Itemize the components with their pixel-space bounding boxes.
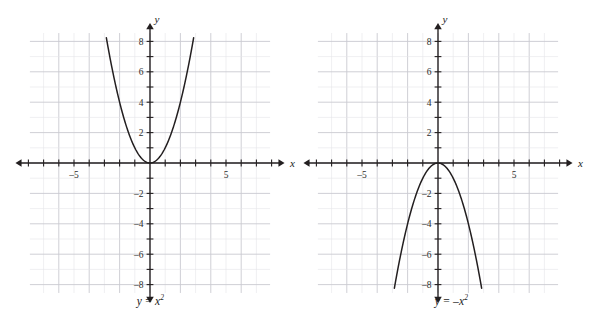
y-axis-tick-label: –6 xyxy=(421,250,432,260)
y-axis-tick-label: –2 xyxy=(421,189,432,199)
coordinate-plane-left: –558642–2–4–6–8xy xyxy=(0,0,301,326)
y-axis-tick-label: 6 xyxy=(139,67,144,77)
x-axis-tick-label: –5 xyxy=(68,170,79,180)
caption-left: y = x2 xyxy=(0,293,301,307)
x-axis-arrow-right xyxy=(278,159,284,167)
x-axis-arrow-left xyxy=(15,159,21,167)
y-axis-tick-label: 8 xyxy=(427,37,432,47)
y-axis-label: y xyxy=(442,13,448,25)
x-axis-label: x xyxy=(577,157,583,169)
y-axis-label: y xyxy=(154,13,160,25)
x-axis-arrow-right xyxy=(566,159,572,167)
y-axis-tick-label: 2 xyxy=(427,128,432,138)
y-axis-tick-label: –8 xyxy=(133,280,144,290)
y-axis-tick-label: 4 xyxy=(427,98,432,108)
graph-panel-y-equals-x-squared: –558642–2–4–6–8xy y = x2 xyxy=(0,0,301,326)
y-axis-tick-label: 6 xyxy=(427,67,432,77)
y-axis-tick-label: –4 xyxy=(133,219,144,229)
x-axis-tick-label: 5 xyxy=(224,170,229,180)
caption-left-lhs: y xyxy=(137,295,142,307)
y-axis-tick-label: –8 xyxy=(421,280,432,290)
x-axis-arrow-left xyxy=(303,159,309,167)
caption-left-exponent: 2 xyxy=(160,293,164,302)
x-axis-tick-label: 5 xyxy=(512,170,517,180)
y-axis-tick-label: –2 xyxy=(133,189,144,199)
caption-right-exponent: 2 xyxy=(464,293,468,302)
caption-right-lhs: y xyxy=(435,295,440,307)
caption-left-equals: = xyxy=(145,295,152,307)
x-axis-tick-label: –5 xyxy=(356,170,367,180)
y-axis-arrow-up xyxy=(146,23,154,29)
caption-right-equals: = xyxy=(443,295,450,307)
graph-panel-y-equals-negative-x-squared: –558642–2–4–6–8xy y = –x2 xyxy=(301,0,602,326)
y-axis-tick-label: 4 xyxy=(139,98,144,108)
y-axis-tick-label: –6 xyxy=(133,250,144,260)
x-axis-label: x xyxy=(289,157,295,169)
caption-right: y = –x2 xyxy=(301,293,602,307)
y-axis-tick-label: 2 xyxy=(139,128,144,138)
figure-canvas: –558642–2–4–6–8xy y = x2 –558642–2–4–6–8… xyxy=(0,0,603,326)
y-axis-arrow-up xyxy=(434,23,442,29)
y-axis-tick-label: 8 xyxy=(139,37,144,47)
y-axis-tick-label: –4 xyxy=(421,219,432,229)
coordinate-plane-right: –558642–2–4–6–8xy xyxy=(301,0,602,326)
